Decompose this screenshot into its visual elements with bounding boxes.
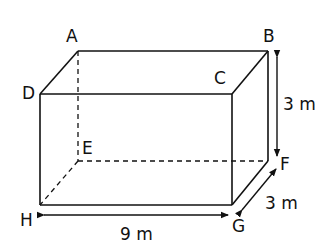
dimension-arrows bbox=[44, 57, 277, 215]
vertex-label-e: E bbox=[82, 140, 93, 157]
edge-GF bbox=[232, 161, 268, 205]
vertex-label-b: B bbox=[263, 28, 275, 45]
length-dimension-label: 9 m bbox=[120, 226, 153, 243]
vertex-label-g: G bbox=[232, 218, 245, 235]
vertex-label-c: C bbox=[214, 70, 226, 87]
height-dimension-label: 3 m bbox=[283, 96, 316, 113]
edge-EH bbox=[40, 161, 78, 205]
visible-edges bbox=[40, 51, 268, 205]
depth-dimension-label: 3 m bbox=[265, 195, 298, 212]
edge-AD bbox=[40, 51, 78, 94]
vertex-label-d: D bbox=[22, 85, 35, 102]
vertex-label-a: A bbox=[66, 28, 78, 45]
edge-BC bbox=[232, 51, 268, 94]
vertex-label-h: H bbox=[20, 212, 33, 229]
prism-diagram: A B C D E F G H 3 m 9 m 3 m bbox=[0, 0, 332, 244]
vertex-label-f: F bbox=[280, 156, 290, 173]
hidden-edges bbox=[40, 51, 268, 205]
